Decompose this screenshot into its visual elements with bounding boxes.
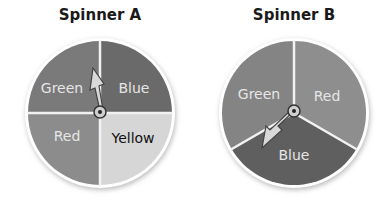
spinner-b-pivot-dot	[292, 109, 296, 113]
spinner-a-section-green	[28, 41, 100, 113]
spinner-a-section-yellow	[100, 113, 172, 185]
spinner-b-label-green: Green	[238, 86, 280, 102]
spinner-a-label-yellow: Yellow	[110, 130, 154, 146]
spinner-a-section-blue	[100, 41, 172, 113]
spinner-a-label-red: Red	[54, 128, 81, 144]
spinner-b-label-red: Red	[314, 88, 341, 104]
spinner-a-label-green: Green	[41, 80, 83, 96]
spinner-a-label-blue: Blue	[119, 80, 150, 96]
spinners-figure: Green Blue Yellow Red Red Blue Green	[0, 0, 390, 202]
spinner-a-pivot-dot	[98, 110, 102, 114]
spinner-b: Red Blue Green	[219, 38, 370, 190]
spinner-a: Green Blue Yellow Red	[25, 38, 176, 190]
spinner-b-label-blue: Blue	[279, 147, 310, 163]
spinner-a-section-red	[28, 113, 100, 185]
